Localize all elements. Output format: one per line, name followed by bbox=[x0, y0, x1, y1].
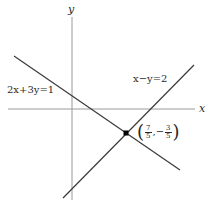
x-axis-label: x bbox=[199, 103, 205, 114]
line1-equation-label: 2x+3y=1 bbox=[7, 85, 54, 95]
intersection-point bbox=[124, 131, 129, 136]
coordinate-plane bbox=[0, 0, 208, 207]
y-axis-label: y bbox=[68, 4, 74, 15]
x-coordinate-fraction: 7 5 bbox=[145, 125, 151, 140]
line2-equation-label: x−y=2 bbox=[133, 74, 167, 84]
y-coordinate-fraction: 3 5 bbox=[165, 125, 171, 140]
intersection-label: ( 7 5 , − 3 5 ) bbox=[137, 123, 180, 141]
